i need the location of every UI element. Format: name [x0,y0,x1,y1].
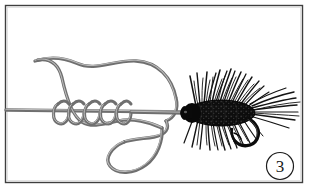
knot-diagram-canvas: 3 [0,0,309,188]
knot-illustration-figure: 3 [0,0,309,188]
fly-hook-eye [180,109,189,117]
step-number-badge: 3 [267,153,294,180]
figure-background [0,0,309,188]
line-to-fly-segment [131,111,185,113]
step-badge-label: 3 [276,157,285,176]
